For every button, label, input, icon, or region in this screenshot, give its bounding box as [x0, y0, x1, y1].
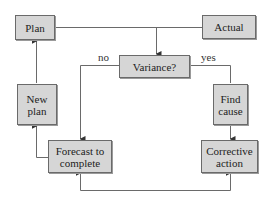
node-corrective-label: Corrective action: [204, 145, 255, 169]
node-actual-label: Actual: [214, 21, 243, 33]
node-variance-label: Variance?: [133, 61, 176, 73]
edge-label-no: no: [98, 51, 109, 63]
node-plan-label: Plan: [25, 22, 45, 34]
yes-branch-line: [190, 66, 231, 84]
node-forecast-label: Forecast to complete: [52, 145, 108, 169]
node-actual: Actual: [202, 15, 256, 39]
node-forecast: Forecast to complete: [48, 140, 112, 173]
edge-label-yes: yes: [201, 51, 216, 63]
node-find-cause-label: Find cause: [216, 93, 245, 117]
forecast-to-newplan-arrow: [37, 126, 49, 158]
no-branch-arrow: [81, 66, 120, 140]
node-plan: Plan: [15, 15, 55, 40]
node-variance: Variance?: [119, 55, 190, 78]
node-find-cause: Find cause: [213, 84, 248, 125]
node-new-plan-label: New plan: [22, 93, 52, 117]
node-new-plan: New plan: [17, 84, 57, 125]
node-corrective: Corrective action: [201, 140, 258, 173]
